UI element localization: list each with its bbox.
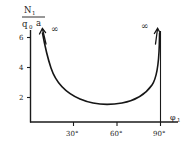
curve-n1: [43, 33, 160, 104]
y-axis-denominator-subscript: 0: [29, 24, 33, 30]
x-tick-label-60deg: 60°: [110, 130, 122, 138]
y-axis-denominator-q: q: [22, 19, 28, 29]
y-axis-ticks: 6 4 2: [19, 34, 31, 102]
x-axis-label-phi: φ: [170, 113, 176, 122]
left-infinity-symbol: ∞: [51, 24, 59, 34]
y-axis-label-group: N 1 q 0 a: [22, 5, 45, 30]
x-axis-label-group: φ 1: [170, 113, 181, 123]
y-axis-numerator-N: N: [24, 5, 32, 15]
y-tick-label-6: 6: [19, 34, 24, 42]
right-infinity-annotation: ∞: [141, 21, 160, 44]
plot-svg: N 1 q 0 a 6 4 2 30° 60° 90°: [0, 0, 192, 148]
x-axis-ticks: 30° 60° 90°: [66, 122, 165, 138]
x-tick-label-30deg: 30°: [66, 130, 78, 138]
figure-container: N 1 q 0 a 6 4 2 30° 60° 90°: [0, 0, 192, 148]
x-axis-label-subscript: 1: [177, 117, 181, 123]
y-tick-label-2: 2: [19, 94, 23, 102]
y-axis-denominator-a: a: [36, 18, 41, 28]
y-tick-label-4: 4: [19, 64, 24, 72]
right-infinity-symbol: ∞: [141, 21, 149, 31]
y-axis-numerator-subscript: 1: [32, 10, 36, 16]
x-tick-label-90deg: 90°: [153, 130, 165, 138]
